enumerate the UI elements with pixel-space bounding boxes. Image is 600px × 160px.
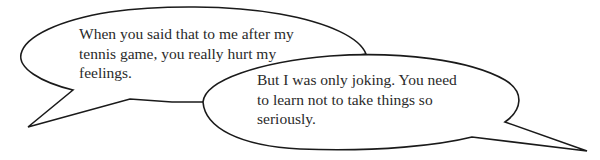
- bubble-right-line-1: But I was only joking. You need: [257, 70, 457, 90]
- bubble-left-line-2: tennis game, you really hurt my: [79, 44, 294, 64]
- bubble-right-line-2: to learn not to take things so: [257, 90, 457, 110]
- bubble-right-line-3: seriously.: [257, 109, 457, 129]
- speech-bubble-diagram: When you said that to me after my tennis…: [0, 0, 600, 160]
- speech-bubble-right-text: But I was only joking. You need to learn…: [257, 70, 457, 129]
- bubble-left-line-1: When you said that to me after my: [79, 24, 294, 44]
